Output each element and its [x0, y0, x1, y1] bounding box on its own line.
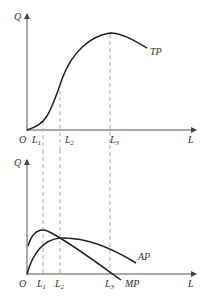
production-curves-figure: TP Q L O L1 L2 L3 AP MP Q L O L1 L2 L3	[0, 0, 209, 303]
top-y-label: Q	[14, 11, 22, 22]
bottom-tick-l2: L2	[54, 278, 65, 291]
tp-label: TP	[150, 46, 162, 57]
top-origin-label: O	[19, 134, 26, 145]
tp-curve	[27, 33, 147, 130]
bottom-chart-ap-mp: AP MP Q L O L1 L2 L3	[14, 145, 196, 291]
top-tick-l1: L1	[31, 134, 41, 147]
bottom-tick-l1: L1	[36, 278, 46, 291]
top-tick-l2: L2	[64, 134, 75, 147]
mp-label: MP	[124, 278, 139, 289]
top-chart-tp: TP Q L O L1 L2 L3	[14, 11, 196, 150]
top-tick-l3: L3	[109, 134, 120, 147]
bottom-x-label: L	[187, 278, 194, 289]
bottom-tick-l3: L3	[104, 278, 115, 291]
bottom-origin-label: O	[19, 278, 26, 289]
top-x-label: L	[187, 134, 194, 145]
bottom-y-label: Q	[14, 157, 22, 168]
ap-label: AP	[137, 251, 150, 262]
mp-curve	[28, 230, 121, 280]
